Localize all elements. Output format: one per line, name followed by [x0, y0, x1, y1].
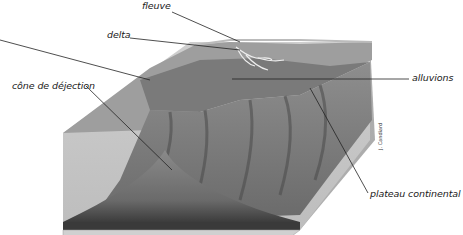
leader-fleuve: [172, 12, 240, 42]
sediment-floor: [63, 222, 300, 230]
block-base: [63, 230, 300, 235]
label-delta: delta: [107, 29, 131, 40]
label-fleuve: fleuve: [142, 0, 171, 11]
label-cone-de-dejection: cône de déjection: [12, 80, 95, 91]
artist-credit: J. Candiard: [377, 123, 383, 150]
leader-offscreen: [0, 40, 150, 80]
block-diagram: fleuve delta alluvions cône de déjection…: [0, 0, 463, 235]
label-alluvions: alluvions: [412, 72, 453, 83]
label-plateau-continental: plateau continental: [370, 188, 461, 199]
block-diagram-illustration: [0, 0, 463, 235]
